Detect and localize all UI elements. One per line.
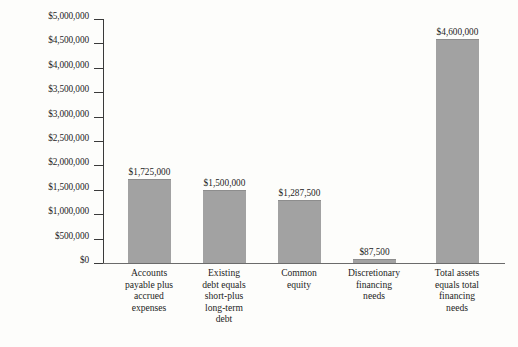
category-label-line: payable plus [109, 279, 189, 291]
category-label-line: expenses [109, 302, 189, 314]
y-axis-tick-label: $1,000,000 [48, 207, 89, 216]
bar-value-label: $87,500 [337, 247, 412, 257]
category-label-line: needs [417, 302, 497, 314]
category-label-line: financing [334, 279, 414, 291]
x-axis-line [103, 263, 505, 264]
category-label-line: financing [417, 290, 497, 302]
y-axis-tick-label: $2,500,000 [48, 134, 89, 143]
y-axis-tick-mark [94, 117, 103, 118]
y-axis-tick-mark [94, 92, 103, 93]
y-axis-tick-mark [94, 165, 103, 166]
category-label-line: Common [259, 267, 339, 279]
y-axis-tick-label: $1,500,000 [48, 183, 89, 192]
y-axis-tick-mark [94, 68, 103, 69]
x-axis-category-label-3: Discretionaryfinancingneeds [334, 267, 414, 302]
x-axis-category-label-2: Commonequity [259, 267, 339, 290]
y-axis-tick-label: $3,500,000 [48, 85, 89, 94]
x-axis-category-label-0: Accountspayable plusaccruedexpenses [109, 267, 189, 313]
category-label-line: debt [184, 313, 264, 325]
y-axis-tick-mark [94, 214, 103, 215]
y-axis-tick-label: $2,000,000 [48, 158, 89, 167]
x-axis-category-label-1: Existingdebt equalsshort-pluslong-termde… [184, 267, 264, 325]
category-label-line: equals total [417, 279, 497, 291]
bar-value-label: $1,725,000 [112, 167, 187, 177]
category-label-line: equity [259, 279, 339, 291]
y-axis-tick-mark [94, 19, 103, 20]
bar-value-label: $4,600,000 [420, 27, 495, 37]
y-axis-tick-label: $4,000,000 [48, 61, 89, 70]
bar-value-label: $1,287,500 [262, 188, 337, 198]
x-axis-category-label-4: Total assetsequals totalfinancingneeds [417, 267, 497, 313]
category-label-line: Total assets [417, 267, 497, 279]
y-axis-tick-mark [94, 263, 103, 264]
category-label-line: Existing [184, 267, 264, 279]
bar-rect[interactable] [436, 39, 479, 263]
bar-rect[interactable] [278, 200, 321, 263]
category-label-line: needs [334, 290, 414, 302]
bar-value-label: $1,500,000 [187, 178, 262, 188]
category-label-line: Accounts [109, 267, 189, 279]
category-label-line: short-plus [184, 290, 264, 302]
y-axis-tick-label: $5,000,000 [48, 12, 89, 21]
category-label-line: debt equals [184, 279, 264, 291]
plot-area: $1,725,000 $1,500,000 $1,287,500 $87,500… [104, 19, 505, 263]
y-axis-tick-mark [94, 190, 103, 191]
y-axis-tick-mark [94, 141, 103, 142]
category-label-line: accrued [109, 290, 189, 302]
bar-rect[interactable] [353, 259, 396, 263]
y-axis-tick-mark [94, 239, 103, 240]
y-axis-tick-label: $4,500,000 [48, 36, 89, 45]
y-axis-tick-label: $0 [80, 256, 89, 265]
y-axis-tick-label: $500,000 [55, 232, 89, 241]
y-axis-tick-mark [94, 43, 103, 44]
bar-chart: $0 $500,000 $1,000,000 $1,500,000 $2,000… [0, 0, 518, 347]
x-axis-category-labels: Accountspayable plusaccruedexpenses Exis… [104, 267, 505, 345]
category-label-line: Discretionary [334, 267, 414, 279]
bar-rect[interactable] [128, 179, 171, 263]
bar-rect[interactable] [203, 190, 246, 263]
category-label-line: long-term [184, 302, 264, 314]
y-axis-tick-label: $3,000,000 [48, 110, 89, 119]
